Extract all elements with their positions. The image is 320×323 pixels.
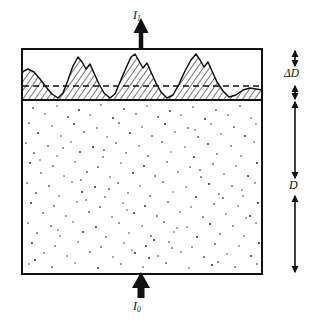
hatched-rough-surface-layer (22, 50, 262, 100)
diagram-canvas (0, 0, 320, 323)
incident-beam-arrow (132, 272, 150, 298)
stippled-bulk-medium (23, 101, 261, 273)
incident-intensity-label: I0 (133, 300, 141, 313)
transmitted-beam-arrow (134, 18, 149, 50)
transmitted-intensity-label: I1 (133, 9, 141, 22)
delta-d-label: ΔD (284, 68, 299, 80)
d-label: D (289, 179, 298, 191)
